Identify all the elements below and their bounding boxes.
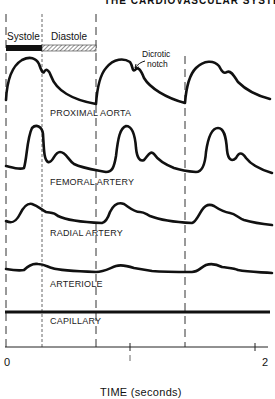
arteriole-trace — [6, 264, 272, 273]
radial-artery-trace — [6, 203, 272, 225]
dicrotic-notch-label-line1: Dicrotic — [142, 49, 171, 59]
time-axis — [5, 343, 268, 361]
header-title: THE CARDIOVASCULAR SYSTEM — [104, 0, 275, 6]
trace-label-capillary: CAPILLARY — [50, 316, 101, 326]
diastole-label: Diastole — [51, 31, 88, 42]
pressure-waveform-diagram: THE CARDIOVASCULAR SYSTEM Systole Diasto… — [0, 0, 275, 399]
axis-label: TIME (seconds) — [100, 386, 182, 398]
trace-label-proximal-aorta: PROXIMAL AORTA — [50, 108, 131, 118]
axis-tick-2: 2 — [262, 356, 268, 368]
dicrotic-notch-label-line2: notch — [147, 59, 168, 69]
dicrotic-notch-arrow — [135, 61, 145, 68]
trace-label-radial-artery: RADIAL ARTERY — [50, 228, 123, 238]
systole-label: Systole — [7, 31, 40, 42]
diastole-bar — [42, 45, 96, 51]
femoral-artery-trace — [6, 126, 272, 173]
axis-tick-0: 0 — [4, 356, 10, 368]
trace-label-arteriole: ARTERIOLE — [50, 279, 103, 289]
systole-bar — [6, 45, 42, 51]
trace-label-femoral-artery: FEMORAL ARTERY — [50, 177, 134, 187]
